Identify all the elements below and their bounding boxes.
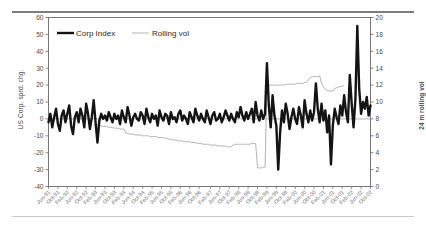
svg-text:60: 60: [36, 14, 44, 21]
svg-text:20: 20: [376, 14, 384, 21]
left-axis-ticks: 6050403020100-10-20-30-40: [34, 14, 49, 190]
svg-text:16: 16: [376, 48, 384, 55]
svg-text:Rolling vol: Rolling vol: [152, 29, 189, 38]
svg-text:20: 20: [36, 81, 44, 88]
svg-text:30: 30: [36, 65, 44, 72]
svg-text:-10: -10: [34, 132, 44, 139]
svg-text:10: 10: [36, 98, 44, 105]
svg-text:40: 40: [36, 48, 44, 55]
svg-text:-30: -30: [34, 166, 44, 173]
svg-text:50: 50: [36, 31, 44, 38]
svg-text:4: 4: [376, 149, 380, 156]
plot-frame: [49, 18, 371, 187]
svg-text:2: 2: [376, 166, 380, 173]
svg-text:10: 10: [376, 98, 384, 105]
svg-text:-40: -40: [34, 183, 44, 190]
svg-text:12: 12: [376, 81, 384, 88]
right-axis-ticks: 20181614121086420: [371, 14, 384, 190]
svg-text:18: 18: [376, 31, 384, 38]
svg-text:Corp Index: Corp Index: [76, 29, 115, 38]
plot-area-wrapper: 6050403020100-10-20-30-40 20181614121086…: [0, 0, 426, 226]
svg-text:6: 6: [376, 132, 380, 139]
svg-text:-20: -20: [34, 149, 44, 156]
x-axis-ticks: Jun-91Oct-91Feb-92Jun-92Oct-92Feb-93Jun-…: [35, 187, 373, 206]
figure-container: US Corp. sprd. chg. 24 m rolling vol 605…: [0, 0, 426, 226]
svg-text:0: 0: [376, 183, 380, 190]
svg-text:14: 14: [376, 65, 384, 72]
svg-text:8: 8: [376, 115, 380, 122]
line-chart: 6050403020100-10-20-30-40 20181614121086…: [0, 0, 426, 226]
svg-text:0: 0: [40, 115, 44, 122]
